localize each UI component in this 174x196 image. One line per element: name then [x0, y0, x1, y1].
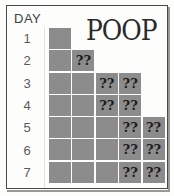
chart-plot-area: ???????????	[49, 28, 167, 188]
chart-cell-marked[interactable]: ?	[119, 73, 141, 94]
chart-cell[interactable]	[72, 162, 94, 183]
chart-cell-marked[interactable]: ?	[143, 117, 165, 138]
chart-cell-marked[interactable]: ?	[96, 73, 118, 94]
day-label: 5	[14, 120, 40, 135]
chart-cell[interactable]	[49, 73, 71, 94]
chart-row	[49, 28, 167, 50]
chart-cell[interactable]	[96, 117, 118, 138]
chart-cell[interactable]	[72, 73, 94, 94]
day-label: 4	[14, 98, 40, 113]
chart-cell[interactable]	[49, 28, 71, 49]
chart-cell[interactable]	[72, 117, 94, 138]
chart-cell[interactable]	[49, 50, 71, 71]
day-label: 6	[14, 143, 40, 158]
chart-cell[interactable]	[49, 162, 71, 183]
day-label: 2	[14, 53, 40, 68]
chart-row: ??	[49, 95, 167, 117]
chart-row: ??	[49, 162, 167, 184]
chart-cell-marked[interactable]: ?	[96, 95, 118, 116]
chart-cell-marked[interactable]: ?	[72, 50, 94, 71]
day-label: 1	[14, 31, 40, 46]
chart-cell-marked[interactable]: ?	[143, 162, 165, 183]
chart-cell[interactable]	[96, 162, 118, 183]
chart-row: ??	[49, 73, 167, 95]
chart-cell[interactable]	[96, 139, 118, 160]
axis-divider	[44, 27, 45, 188]
chart-cell-marked[interactable]: ?	[143, 139, 165, 160]
chart-row: ??	[49, 139, 167, 161]
chart-cell-marked[interactable]: ?	[119, 117, 141, 138]
chart-row: ??	[49, 117, 167, 139]
chart-cell[interactable]	[49, 95, 71, 116]
card-drop-shadow-bottom	[7, 190, 170, 192]
chart-cell[interactable]	[49, 139, 71, 160]
day-label: 7	[14, 165, 40, 180]
axis-label-day: DAY	[14, 11, 41, 26]
day-label: 3	[14, 76, 40, 91]
chart-cell-marked[interactable]: ?	[119, 139, 141, 160]
chart-card: DAY POOP 1234567 ???????????	[0, 0, 174, 196]
chart-row: ?	[49, 50, 167, 72]
chart-cell-marked[interactable]: ?	[119, 162, 141, 183]
chart-cell[interactable]	[49, 117, 71, 138]
chart-cell[interactable]	[72, 139, 94, 160]
chart-cell[interactable]	[72, 95, 94, 116]
card-drop-shadow-right	[168, 7, 170, 192]
chart-cell-marked[interactable]: ?	[119, 95, 141, 116]
